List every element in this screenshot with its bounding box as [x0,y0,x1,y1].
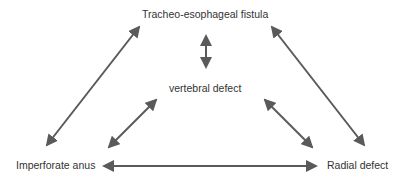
arrow-center-left [109,100,156,147]
node-top: Tracheo-esophageal fistula [142,8,268,20]
node-center: vertebral defect [169,82,241,94]
node-left: Imperforate anus [16,159,95,171]
arrow-center-right [265,100,312,147]
arrow-top-right [272,27,364,145]
node-right: Radial defect [327,159,388,171]
arrow-top-left [47,27,139,145]
